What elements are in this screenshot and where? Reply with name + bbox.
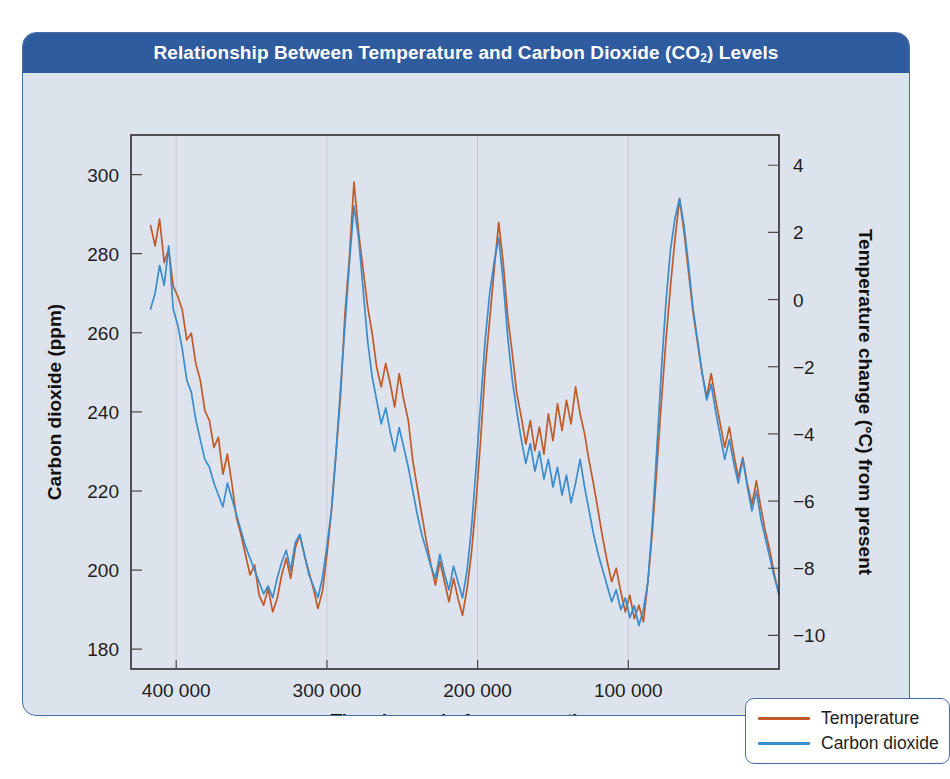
axis-ticks [131,165,779,669]
legend-swatch-temperature [758,717,810,721]
legend-swatch-carbon-dioxide [758,742,810,746]
chart-title-subscript: 2 [700,51,707,65]
tick-label-y-right: −4 [793,424,815,445]
series-line-temperature [151,182,779,622]
tick-label-y-right: −8 [793,558,815,579]
tick-label-y-right: 2 [793,222,804,243]
climate-line-chart: 180200220240260280300420−2−4−6−8−10400 0… [23,73,910,716]
x-axis-title: Time (years before present) [331,710,580,716]
tick-label-x: 300 000 [293,680,362,701]
tick-label-y-left: 280 [87,244,119,265]
y-axis-left-title: Carbon dioxide (ppm) [44,304,65,500]
legend-item-carbon-dioxide: Carbon dioxide [758,731,939,756]
chart-title-tail: ) Levels [707,42,779,63]
tick-label-y-left: 260 [87,323,119,344]
tick-label-y-left: 180 [87,639,119,660]
chart-title-bar: Relationship Between Temperature and Car… [23,33,909,73]
chart-title-main: Relationship Between Temperature and Car… [153,42,700,63]
chart-card: Relationship Between Temperature and Car… [22,32,910,716]
tick-label-x: 400 000 [142,680,211,701]
tick-label-y-left: 240 [87,402,119,423]
tick-label-y-left: 200 [87,560,119,581]
gridlines [176,135,628,669]
tick-label-x: 100 000 [594,680,663,701]
tick-label-y-left: 220 [87,481,119,502]
tick-label-y-right: −10 [793,625,825,646]
axis-labels: 180200220240260280300420−2−4−6−8−10400 0… [44,155,876,716]
tick-label-y-left: 300 [87,165,119,186]
legend-label-temperature: Temperature [821,708,919,729]
tick-label-y-right: 4 [793,155,804,176]
legend-item-temperature: Temperature [758,706,939,731]
tick-label-x: 200 000 [443,680,512,701]
tick-label-y-right: 0 [793,290,804,311]
tick-label-y-right: −6 [793,491,815,512]
tick-label-y-right: −2 [793,357,815,378]
plot-wrapper: 180200220240260280300420−2−4−6−8−10400 0… [23,73,909,715]
chart-legend: Temperature Carbon dioxide [745,698,950,764]
data-series [151,182,779,626]
series-line-carbon-dioxide [151,198,779,625]
legend-label-carbon-dioxide: Carbon dioxide [821,733,939,754]
y-axis-right-title: Temperature change (°C) from present [855,229,876,576]
page-title: Relationship Between Temperature and Car… [153,42,778,64]
